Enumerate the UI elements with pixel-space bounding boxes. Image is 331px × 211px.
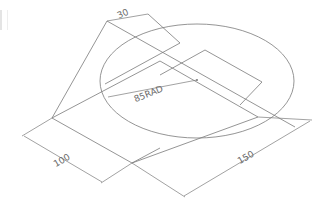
construction-line-right-down <box>240 82 262 105</box>
dim-label-150: 150 <box>236 149 256 166</box>
edge-bottom-short <box>132 148 160 163</box>
radius-label: 85RAD <box>133 83 165 104</box>
center-mark <box>196 79 198 81</box>
ext-line-150-b <box>132 163 185 197</box>
ext-line-100-a <box>22 118 52 136</box>
ext-line-100-b <box>101 163 132 183</box>
drawing-canvas: 30 85RAD 100 150 <box>0 0 331 211</box>
extension-line-30 <box>148 14 180 43</box>
construction-line-inner <box>160 50 205 75</box>
ext-line-150-a <box>258 117 312 120</box>
dim-label-30: 30 <box>115 7 130 21</box>
edge-mid-back <box>160 61 258 117</box>
construction-line-right <box>205 50 262 82</box>
